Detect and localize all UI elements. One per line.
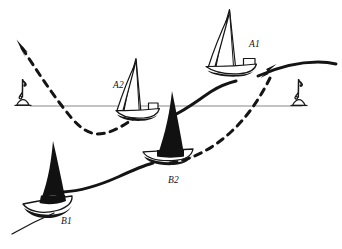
sailing-diagram: A1 A2 B2 [0,0,342,249]
mark-right-icon [291,79,308,106]
track-solid-A [172,62,336,116]
boat-A2: A2 [112,59,160,121]
boat-A1-label: A1 [248,39,260,49]
mark-left-icon [15,79,32,105]
boat-B1-label: B1 [61,216,72,226]
boat-A2-label: A2 [112,80,124,90]
diagram-canvas: A1 A2 B2 [0,0,342,249]
boat-A1: A1 [206,10,260,77]
boat-B1: B1 [23,141,73,226]
boat-B2-label: B2 [168,175,179,185]
track-solid-B [12,163,153,234]
